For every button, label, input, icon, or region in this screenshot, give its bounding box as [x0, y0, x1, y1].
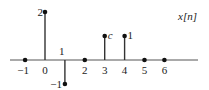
- tick-label-n5: 5: [142, 64, 148, 76]
- signal-title: x[n]: [177, 10, 197, 22]
- tick-label-n4: 4: [122, 64, 128, 76]
- stem-plot: −10123456 2−1c1 x[n]: [0, 0, 209, 90]
- value-label-n0: 2: [38, 6, 44, 18]
- tick-label-n1: 1: [59, 45, 65, 57]
- stem-point-n-1: [23, 58, 28, 63]
- stem-point-n3: [102, 34, 107, 39]
- stem-point-n2: [83, 58, 88, 63]
- stem-point-n4: [122, 34, 127, 39]
- value-label-n1: −1: [50, 78, 62, 90]
- value-labels-group: 2−1c1: [38, 6, 134, 90]
- value-label-n4: 1: [128, 29, 134, 41]
- tick-label-n2: 2: [82, 64, 88, 76]
- tick-label-n0: 0: [42, 64, 48, 76]
- tick-label-n3: 3: [102, 64, 108, 76]
- tick-label-n-1: −1: [17, 64, 29, 76]
- stem-point-n6: [162, 58, 167, 63]
- stem-point-n0: [43, 10, 48, 15]
- stem-point-n5: [142, 58, 147, 63]
- value-label-n3: c: [108, 29, 113, 41]
- tick-label-n6: 6: [162, 64, 168, 76]
- stem-point-n1: [63, 82, 68, 87]
